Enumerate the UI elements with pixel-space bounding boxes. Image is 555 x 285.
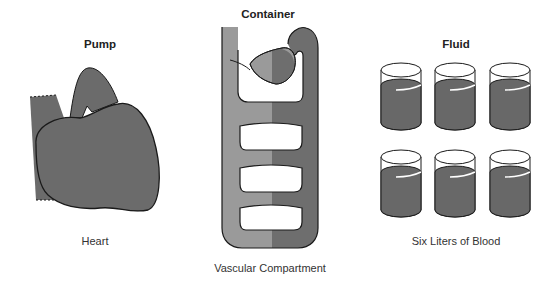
beaker-icon [381, 63, 421, 130]
heart-icon [30, 68, 159, 211]
beakers-group [381, 63, 530, 217]
beaker-icon [381, 150, 421, 217]
diagram-canvas [0, 0, 555, 285]
beaker-icon [435, 63, 475, 130]
beaker-icon [435, 150, 475, 217]
beaker-icon [490, 63, 530, 130]
beaker-icon [490, 150, 530, 217]
vascular-compartment-icon [222, 27, 318, 248]
